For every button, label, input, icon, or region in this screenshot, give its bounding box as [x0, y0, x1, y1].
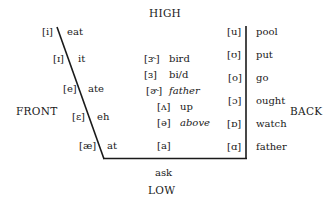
front-vowel-word: it [78, 53, 85, 65]
central-vowel-symbol: [ə] [157, 117, 171, 129]
back-vowel-word: pool [256, 26, 278, 38]
label-high: HIGH [149, 7, 181, 19]
central-vowel-symbol: [ɚ] [146, 85, 162, 97]
back-vowel-symbol: [u] [227, 26, 241, 38]
central-vowel-word: father [169, 85, 200, 97]
front-vowel-symbol: [æ] [79, 140, 96, 152]
back-vowel-symbol: [ɔ] [228, 95, 241, 107]
central-vowel-word: ask [155, 167, 172, 179]
back-vowel-symbol: [ʊ] [227, 49, 241, 61]
front-vowel-word: at [107, 140, 117, 152]
front-vowel-word: eh [97, 111, 109, 123]
back-vowel-word: go [256, 72, 268, 84]
back-vowel-symbol: [o] [228, 72, 242, 84]
front-vowel-word: ate [88, 83, 104, 95]
front-vowel-symbol: [e] [63, 83, 77, 95]
back-vowel-symbol: [ɑ] [227, 141, 241, 153]
front-vowel-word: eat [67, 26, 83, 38]
label-low: LOW [148, 184, 175, 196]
central-vowel-symbol: [ɝ] [144, 53, 160, 65]
central-vowel-word: bi/d [169, 69, 188, 81]
central-vowel-word: bird [169, 53, 190, 65]
central-vowel-word: above [180, 117, 210, 129]
back-vowel-word: father [256, 141, 287, 153]
front-vowel-symbol: [i] [42, 26, 53, 38]
central-vowel-symbol: [ɜ] [144, 69, 157, 81]
back-vowel-word: ought [256, 95, 285, 107]
label-back: BACK [290, 105, 322, 117]
central-vowel-word: up [180, 101, 193, 113]
front-vowel-symbol: [ɪ] [53, 53, 64, 65]
central-vowel-symbol: [ʌ] [157, 101, 170, 113]
label-front: FRONT [16, 105, 58, 117]
back-vowel-word: watch [256, 118, 287, 130]
back-vowel-symbol: [ɒ] [227, 118, 241, 130]
central-vowel-symbol: [a] [157, 140, 171, 152]
back-vowel-word: put [256, 49, 273, 61]
front-vowel-symbol: [ɛ] [72, 111, 85, 123]
